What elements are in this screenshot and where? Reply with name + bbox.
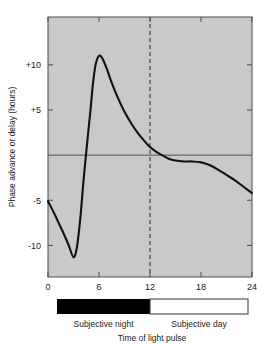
chart-svg: 06121824 +10+5-5-10 Phase advance or del… xyxy=(0,0,270,344)
x-axis-tick-labels: 06121824 xyxy=(45,282,257,292)
x-tick-label: 0 xyxy=(45,282,50,292)
y-tick-label: +5 xyxy=(31,105,41,115)
y-axis-tick-labels: +10+5-5-10 xyxy=(26,60,41,251)
y-axis-title: Phase advance or delay (hours) xyxy=(7,87,17,208)
subjective-day-bar xyxy=(150,299,248,314)
x-tick-label: 6 xyxy=(96,282,101,292)
x-axis-title: Time of light pulse xyxy=(118,333,187,343)
x-tick-label: 12 xyxy=(145,282,155,292)
subjective-night-bar xyxy=(57,299,150,314)
subjective-night-label: Subjective night xyxy=(73,319,134,329)
y-tick-label: -5 xyxy=(33,196,41,206)
subjective-day-label: Subjective day xyxy=(171,319,227,329)
phase-response-curve-figure: 06121824 +10+5-5-10 Phase advance or del… xyxy=(0,0,270,344)
x-tick-label: 18 xyxy=(196,282,206,292)
y-tick-label: -10 xyxy=(28,241,41,251)
y-tick-label: +10 xyxy=(26,60,41,70)
x-tick-label: 24 xyxy=(247,282,257,292)
